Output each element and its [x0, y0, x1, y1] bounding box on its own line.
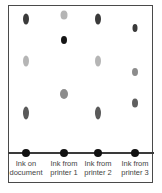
lane-label-line2: document	[6, 168, 46, 177]
lane-label-line1: Ink from	[115, 159, 155, 168]
lane-label: Ink ondocument	[6, 159, 46, 177]
origin-dot	[131, 149, 139, 157]
chromatography-paper	[8, 5, 153, 183]
lane-label-line1: Ink on	[6, 159, 46, 168]
ink-spot	[95, 14, 101, 25]
ink-spot	[132, 99, 138, 108]
ink-spot	[132, 68, 138, 76]
lane-label-line2: printer 3	[115, 168, 155, 177]
origin-dot	[94, 149, 102, 157]
lane-label: Ink fromprinter 2	[78, 159, 118, 177]
origin-dot	[60, 149, 68, 157]
ink-spot	[23, 107, 29, 120]
ink-spot	[95, 107, 101, 120]
origin-dot	[22, 149, 30, 157]
lane-label: Ink fromprinter 3	[115, 159, 155, 177]
ink-spot	[133, 24, 138, 32]
ink-spot	[23, 56, 29, 67]
ink-spot	[95, 56, 101, 67]
ink-spot	[61, 11, 68, 20]
ink-spot	[23, 14, 29, 25]
lane-label-line1: Ink from	[78, 159, 118, 168]
lane-label-line2: printer 2	[78, 168, 118, 177]
ink-spot	[61, 36, 67, 44]
ink-spot	[60, 89, 68, 99]
